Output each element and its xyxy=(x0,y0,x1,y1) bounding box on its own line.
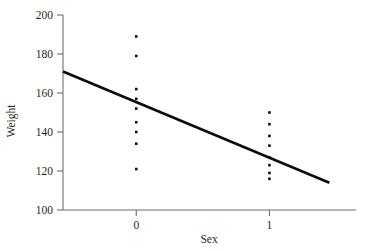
data-point xyxy=(268,164,271,167)
plot-canvas: 100120140160180200 Weight 01 Sex xyxy=(0,0,373,251)
data-point xyxy=(268,172,271,175)
data-point xyxy=(135,88,138,91)
data-point xyxy=(135,107,138,110)
data-point xyxy=(135,35,138,38)
y-tick-label-140: 140 xyxy=(36,126,54,138)
y-tick-label-100: 100 xyxy=(36,204,54,216)
data-point xyxy=(135,55,138,58)
data-point xyxy=(135,98,138,101)
data-point xyxy=(135,168,138,171)
scatter-plot-figure: 100120140160180200 Weight 01 Sex xyxy=(0,0,373,251)
data-point xyxy=(268,123,271,126)
data-point xyxy=(135,121,138,124)
plot-background xyxy=(0,0,373,251)
y-tick-label-200: 200 xyxy=(36,9,54,21)
y-tick-label-160: 160 xyxy=(36,87,54,99)
data-point xyxy=(268,111,271,114)
data-point xyxy=(135,142,138,145)
x-tick-label-1: 1 xyxy=(267,219,273,231)
y-tick-label-120: 120 xyxy=(36,165,54,177)
y-axis-title: Weight xyxy=(5,104,18,138)
data-point xyxy=(268,135,271,138)
x-tick-label-0: 0 xyxy=(133,219,139,231)
x-axis-title: Sex xyxy=(200,233,218,245)
data-point xyxy=(135,131,138,134)
data-point xyxy=(268,156,271,159)
y-tick-label-180: 180 xyxy=(36,48,54,60)
data-point xyxy=(268,144,271,147)
data-point xyxy=(268,178,271,181)
